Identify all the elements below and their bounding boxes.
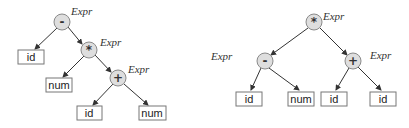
- edge-R2-R4: [251, 68, 261, 90]
- leaf-text: id: [330, 93, 339, 105]
- right-tree-nodes: * Expr - Expr + Expr id num: [210, 10, 396, 106]
- leaf-node-id: id: [18, 50, 44, 64]
- op-node-minus: - Expr: [210, 50, 273, 69]
- edge-R3-R7: [358, 67, 381, 90]
- edge-L3-L4: [63, 56, 84, 77]
- edge-R3-R6: [336, 68, 349, 90]
- leaf-node-num: num: [288, 92, 314, 106]
- minus-symbol: -: [263, 54, 268, 68]
- leaf-node-id: id: [77, 106, 102, 120]
- expr-label: Expr: [99, 36, 122, 48]
- minus-symbol: -: [60, 15, 65, 29]
- leaf-node-num: num: [139, 106, 166, 120]
- op-node-times: * Expr: [81, 36, 122, 58]
- edge-L1-L3: [68, 27, 82, 44]
- op-node-times: * Expr: [306, 10, 345, 30]
- left-tree-nodes: - Expr id * Expr num + Expr: [18, 5, 166, 120]
- edge-R1-R2: [271, 28, 308, 55]
- plus-symbol: +: [113, 71, 123, 85]
- edge-L5-L7: [124, 84, 148, 105]
- leaf-node-id: id: [370, 92, 396, 106]
- leaf-text: id: [379, 93, 388, 105]
- edge-L1-L2: [35, 28, 57, 49]
- expr-label: Expr: [70, 5, 93, 17]
- times-symbol: *: [311, 15, 318, 29]
- edge-R1-R3: [320, 28, 347, 55]
- plus-symbol: +: [348, 54, 358, 68]
- times-symbol: *: [86, 43, 93, 57]
- edge-L5-L6: [93, 84, 113, 105]
- leaf-node-num: num: [46, 78, 72, 92]
- edge-R2-R5: [269, 68, 299, 90]
- op-node-minus: - Expr: [54, 5, 93, 30]
- leaf-text: num: [48, 79, 69, 91]
- expression-tree-diagram: - Expr id * Expr num + Expr: [0, 0, 409, 128]
- expr-label: Expr: [369, 49, 392, 61]
- leaf-text: id: [27, 51, 36, 63]
- op-node-plus: + Expr: [345, 49, 392, 69]
- leaf-text: num: [141, 107, 162, 119]
- leaf-text: num: [290, 93, 311, 105]
- expr-label: Expr: [127, 63, 150, 75]
- expr-label: Expr: [322, 10, 345, 22]
- expr-label: Expr: [210, 50, 233, 62]
- leaf-text: id: [245, 93, 254, 105]
- leaf-node-id: id: [236, 92, 262, 106]
- op-node-plus: + Expr: [110, 63, 150, 86]
- leaf-text: id: [85, 107, 94, 119]
- edge-L3-L5: [95, 55, 111, 72]
- leaf-node-id: id: [321, 92, 347, 106]
- diagram-svg: - Expr id * Expr num + Expr: [0, 0, 409, 128]
